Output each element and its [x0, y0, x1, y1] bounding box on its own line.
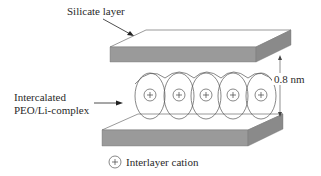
legend: Interlayer cation	[109, 156, 199, 168]
intercalated-arrowhead-icon	[116, 101, 123, 106]
spacing-label: 0.8 nm	[274, 73, 305, 85]
bottom-silicate-plate	[102, 114, 283, 146]
top-plate-front-face	[110, 47, 256, 62]
bottom-plate-front-face	[102, 130, 248, 146]
helix-back-arcs	[135, 72, 276, 84]
silicate-arrow	[103, 19, 132, 35]
silicate-layer-label: Silicate layer	[67, 5, 125, 17]
intercalated-label-line1: Intercalated	[14, 91, 66, 103]
silicate-arrowhead-icon	[127, 31, 134, 36]
diagram-canvas: Silicate layer Intercalated PEO/Li-compl…	[0, 0, 321, 176]
top-silicate-plate	[110, 30, 291, 62]
intercalated-label-line2: PEO/Li-complex	[14, 104, 90, 116]
spacing-arrow-up-icon	[278, 55, 282, 60]
legend-cation-label: Interlayer cation	[126, 156, 199, 168]
